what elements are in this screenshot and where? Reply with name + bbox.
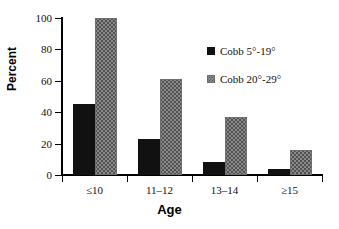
chart-legend: Cobb 5°-19°Cobb 20°-29° (207, 44, 281, 100)
plot-area (62, 18, 322, 175)
legend-label: Cobb 5°-19° (220, 46, 276, 57)
x-tick-mark (127, 176, 128, 182)
y-tick-mark (55, 175, 61, 176)
y-tick-mark (55, 18, 61, 19)
x-tick-mark (257, 176, 258, 182)
bar-0-0 (73, 104, 95, 175)
y-tick-mark (55, 112, 61, 113)
legend-swatch-icon (207, 75, 215, 83)
y-tick-label: 100 (0, 13, 52, 24)
bar-0-2 (203, 162, 225, 175)
y-tick-mark (55, 81, 61, 82)
x-tick-mark (62, 176, 63, 182)
bar-0-1 (138, 139, 160, 175)
bar-chart-figure: Percent 020406080100 ≤1011–1213–14≥15 Ag… (0, 0, 339, 229)
x-axis-title: Age (0, 202, 339, 217)
y-tick-mark (55, 144, 61, 145)
y-axis-title: Percent (5, 24, 19, 114)
bar-1-3 (290, 150, 312, 175)
bar-1-2 (225, 117, 247, 175)
bar-1-0 (95, 18, 117, 175)
x-tick-label: ≤10 (60, 184, 130, 196)
y-tick-label: 80 (0, 44, 52, 55)
legend-item: Cobb 5°-19° (207, 44, 281, 58)
x-tick-mark (192, 176, 193, 182)
x-tick-label: 13–14 (190, 184, 260, 196)
x-tick-mark (322, 176, 323, 182)
x-tick-label: ≥15 (255, 184, 325, 196)
bar-1-1 (160, 79, 182, 175)
legend-label: Cobb 20°-29° (220, 74, 281, 85)
legend-item: Cobb 20°-29° (207, 72, 281, 86)
y-tick-label: 60 (0, 76, 52, 87)
y-tick-label: 20 (0, 139, 52, 150)
bar-0-3 (268, 169, 290, 175)
y-tick-label: 40 (0, 107, 52, 118)
y-tick-mark (55, 49, 61, 50)
legend-swatch-icon (207, 47, 215, 55)
x-tick-label: 11–12 (125, 184, 195, 196)
y-tick-label: 0 (0, 170, 52, 181)
